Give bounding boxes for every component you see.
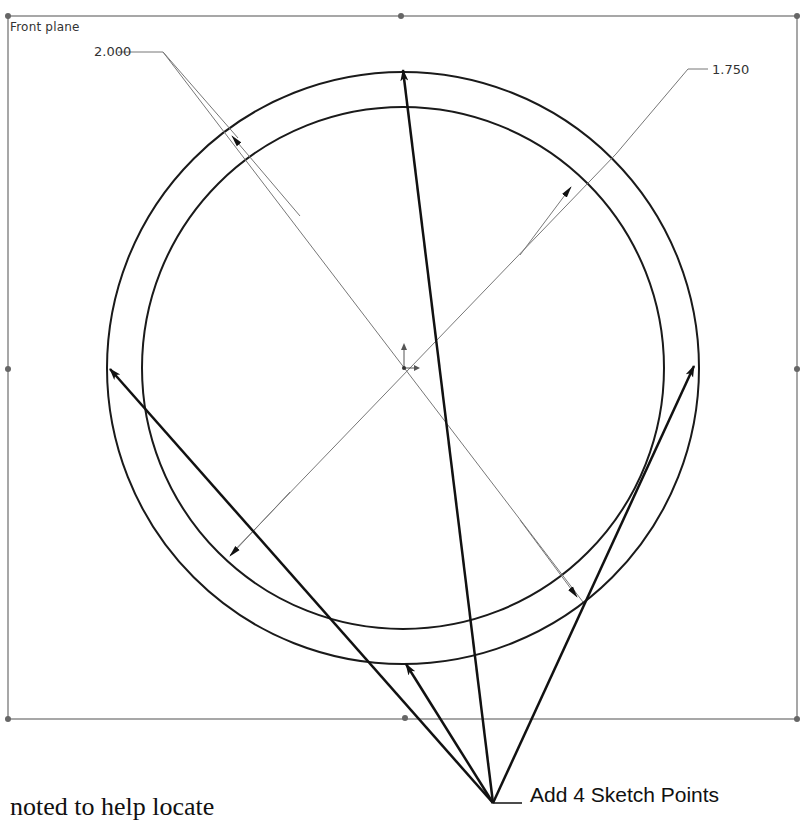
plane-handle-mr[interactable]: [794, 366, 800, 372]
dimension-outer-diameter[interactable]: [118, 52, 583, 602]
body-text-fragment: noted to help locate: [10, 792, 214, 822]
plane-handle-tl[interactable]: [5, 13, 11, 19]
callout-label: Add 4 Sketch Points: [530, 783, 719, 807]
plane-handle-tr[interactable]: [794, 13, 800, 19]
plane-handle-bm[interactable]: [402, 715, 408, 721]
dimension-label-inner[interactable]: 1.750: [712, 62, 749, 77]
plane-handle-br[interactable]: [794, 716, 800, 722]
plane-label: Front plane: [10, 20, 80, 34]
plane-handle-bl[interactable]: [5, 716, 11, 722]
plane-handle-tm[interactable]: [398, 13, 404, 19]
plane-handle-ml[interactable]: [5, 366, 11, 372]
dimension-label-outer[interactable]: 2.000: [94, 44, 131, 59]
callout-arrows: [110, 70, 694, 803]
